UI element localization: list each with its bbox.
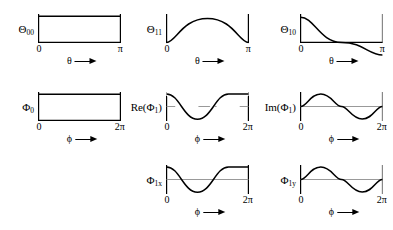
plot-rephi1: 0 2π ϕ: [166, 92, 249, 121]
tick-phi1y-left: 0: [298, 195, 303, 205]
axis-var-theta00: θ: [67, 56, 72, 66]
panel-label-theta11: Θ11: [147, 23, 162, 34]
axis-arrow-icon: [337, 58, 359, 65]
panel-label-phi0: Φ0: [22, 101, 34, 112]
plot-phi1y: 0 2π ϕ: [300, 165, 383, 194]
tick-theta11-left: 0: [164, 44, 169, 54]
axis-arrow-icon: [75, 136, 97, 143]
axis-arrow-icon: [203, 136, 225, 143]
panel-phi0: Φ0 0 2π ϕ: [38, 92, 121, 121]
panel-label-rephi1: Re(Φ1): [131, 101, 162, 112]
plot-theta10: 0 π θ: [300, 14, 383, 43]
axis-caption-phi0: ϕ: [67, 134, 97, 144]
curve-phi0: [38, 92, 121, 121]
tick-theta10-left: 0: [298, 44, 303, 54]
axis-caption-theta11: θ: [195, 56, 225, 66]
curve-theta11: [166, 14, 249, 43]
tick-rephi1-left: 0: [164, 122, 169, 132]
panel-theta00: Θ00 0 π θ: [38, 14, 121, 43]
curve-theta00: [38, 14, 121, 43]
plot-phi1x: 0 2π ϕ: [166, 165, 249, 194]
panel-phi1y: Φ1y 0 2π ϕ: [300, 165, 383, 194]
plot-imphi1: 0 2π ϕ: [300, 92, 383, 121]
panel-theta11: Θ11 0 π θ: [166, 14, 249, 43]
axis-var-phi1x: ϕ: [195, 207, 200, 217]
axis-var-phi0: ϕ: [67, 134, 72, 144]
curve-rephi1: [166, 92, 249, 121]
axis-caption-imphi1: ϕ: [329, 134, 359, 144]
panel-label-theta10: Θ10: [281, 23, 296, 34]
curve-phi1x: [166, 165, 249, 194]
tick-phi0-left: 0: [36, 122, 41, 132]
panel-label-phi1x: Φ1x: [146, 174, 162, 185]
spherical-harmonics-figure: Θ00 0 π θ Θ11 0 π θ Θ10: [0, 0, 393, 230]
axis-var-phi1y: ϕ: [329, 207, 334, 217]
panel-label-theta00: Θ00: [19, 23, 34, 34]
tick-phi1x-left: 0: [164, 195, 169, 205]
tick-theta00-right: π: [118, 44, 123, 54]
tick-imphi1-left: 0: [298, 122, 303, 132]
plot-theta00: 0 π θ: [38, 14, 121, 43]
plot-phi0: 0 2π ϕ: [38, 92, 121, 121]
tick-phi1y-right: 2π: [377, 195, 387, 205]
curve-imphi1: [300, 92, 383, 121]
axis-var-rephi1: ϕ: [195, 134, 200, 144]
panel-theta10: Θ10 0 π θ: [300, 14, 383, 43]
axis-caption-theta00: θ: [67, 56, 97, 66]
axis-var-theta10: θ: [329, 56, 334, 66]
tick-theta11-right: π: [246, 44, 251, 54]
panel-rephi1: Re(Φ1) 0 2π ϕ: [166, 92, 249, 121]
axis-arrow-icon: [337, 209, 359, 216]
axis-arrow-icon: [337, 136, 359, 143]
axis-caption-rephi1: ϕ: [195, 134, 225, 144]
axis-arrow-icon: [75, 58, 97, 65]
panel-imphi1: Im(Φ1) 0 2π ϕ: [300, 92, 383, 121]
plot-theta11: 0 π θ: [166, 14, 249, 43]
tick-phi1x-right: 2π: [243, 195, 253, 205]
axis-var-imphi1: ϕ: [329, 134, 334, 144]
curve-phi1y: [300, 165, 383, 194]
tick-imphi1-right: 2π: [377, 122, 387, 132]
curve-theta10: [300, 14, 383, 43]
tick-theta10-right: π: [380, 44, 385, 54]
axis-caption-phi1y: ϕ: [329, 207, 359, 217]
panel-label-imphi1: Im(Φ1): [265, 101, 296, 112]
axis-var-theta11: θ: [195, 56, 200, 66]
panel-phi1x: Φ1x 0 2π ϕ: [166, 165, 249, 194]
axis-arrow-icon: [203, 209, 225, 216]
axis-caption-theta10: θ: [329, 56, 359, 66]
tick-phi0-right: 2π: [115, 122, 125, 132]
axis-caption-phi1x: ϕ: [195, 207, 225, 217]
axis-arrow-icon: [203, 58, 225, 65]
tick-theta00-left: 0: [36, 44, 41, 54]
tick-rephi1-right: 2π: [243, 122, 253, 132]
panel-label-phi1y: Φ1y: [280, 174, 296, 185]
